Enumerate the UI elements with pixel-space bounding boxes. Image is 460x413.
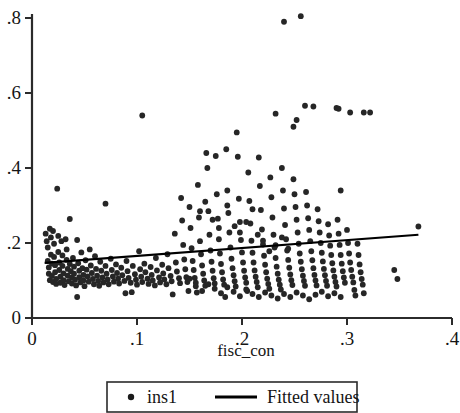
data-point (214, 191, 220, 197)
data-point (281, 206, 287, 212)
data-point (254, 279, 260, 285)
data-point (60, 263, 66, 269)
data-point (321, 266, 327, 272)
data-point (188, 225, 194, 231)
data-point (156, 275, 162, 281)
data-point (273, 255, 279, 261)
data-point (256, 294, 262, 300)
data-point (114, 270, 120, 276)
data-point (324, 283, 330, 289)
data-point (332, 274, 338, 280)
data-point (232, 278, 238, 284)
data-point (118, 265, 124, 271)
data-point (143, 269, 149, 275)
data-point (210, 217, 216, 223)
data-point (316, 218, 322, 224)
data-point (149, 272, 155, 278)
data-point (279, 234, 285, 240)
data-point (212, 281, 218, 287)
data-point (311, 104, 317, 110)
data-point (306, 296, 312, 302)
data-point (336, 106, 342, 112)
data-point (179, 218, 185, 224)
data-point (51, 254, 57, 260)
x-tick-label: 0 (27, 328, 37, 349)
data-point (290, 282, 296, 288)
data-point (202, 199, 208, 205)
data-point (229, 256, 235, 262)
data-point (347, 260, 353, 266)
data-point (326, 233, 332, 239)
data-point (234, 129, 240, 135)
data-point (358, 269, 364, 275)
data-point (338, 252, 344, 258)
data-point (178, 195, 184, 201)
data-point (215, 216, 221, 222)
data-point (51, 241, 57, 247)
data-point (236, 196, 242, 202)
data-point (45, 245, 51, 251)
data-point (294, 117, 300, 123)
data-point (275, 296, 281, 302)
data-point (159, 262, 165, 268)
legend-marker-dot (128, 394, 134, 400)
data-point (130, 263, 136, 269)
data-point (391, 267, 397, 273)
data-point (103, 263, 109, 269)
data-point (359, 276, 365, 282)
data-point (193, 283, 199, 289)
data-point (206, 208, 212, 214)
data-point (327, 243, 333, 249)
data-point (64, 246, 70, 252)
data-point (67, 216, 73, 222)
data-point (43, 231, 49, 237)
data-point (323, 278, 329, 284)
data-point (113, 261, 119, 267)
data-point (262, 290, 268, 296)
data-point (252, 267, 258, 273)
data-point (217, 251, 223, 257)
data-point (209, 259, 215, 265)
data-point (242, 275, 248, 281)
data-point (339, 261, 345, 267)
data-point (213, 153, 219, 159)
y-tick-label: .8 (7, 7, 21, 28)
data-point (152, 282, 158, 288)
data-point (270, 215, 276, 221)
x-tick-label: .3 (340, 328, 354, 349)
data-point (338, 188, 344, 194)
data-point (341, 275, 347, 281)
data-point (148, 264, 154, 270)
data-point (259, 227, 265, 233)
data-point (302, 103, 308, 109)
data-point (227, 230, 233, 236)
data-point (187, 204, 193, 210)
data-point (239, 249, 245, 255)
y-tick-label: 0 (12, 307, 22, 328)
data-point (328, 252, 334, 258)
data-point (265, 281, 271, 287)
data-point (292, 191, 298, 197)
data-point (238, 237, 244, 243)
data-point (360, 282, 366, 288)
data-point (357, 261, 363, 267)
data-point (164, 281, 170, 287)
data-point (249, 238, 255, 244)
data-point (237, 230, 243, 236)
data-point (336, 231, 342, 237)
data-point (348, 267, 354, 273)
data-point (273, 111, 279, 117)
data-point (74, 294, 80, 300)
data-point (212, 286, 218, 292)
data-point (300, 293, 306, 299)
data-point (48, 234, 54, 240)
data-point (186, 288, 192, 294)
data-point (84, 267, 90, 273)
data-point (71, 271, 77, 277)
data-point (335, 217, 341, 223)
data-point (301, 278, 307, 284)
data-point (319, 289, 325, 295)
data-point (271, 232, 277, 238)
data-point (281, 19, 287, 25)
data-point (133, 277, 139, 283)
